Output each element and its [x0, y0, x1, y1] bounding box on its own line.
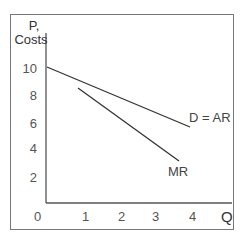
demand-curve-label: D = AR: [189, 111, 231, 124]
x-tick-0: 0: [34, 210, 41, 223]
x-tick-1: 1: [82, 210, 89, 223]
y-tick-6: 6: [13, 117, 37, 130]
x-tick-3: 3: [152, 210, 159, 223]
x-tick-4: 4: [189, 210, 196, 223]
mr-curve-line: [78, 88, 179, 161]
y-tick-2: 2: [13, 171, 37, 184]
y-tick-10: 10: [13, 62, 37, 75]
y-tick-8: 8: [13, 89, 37, 102]
x-tick-2: 2: [118, 210, 125, 223]
x-axis-title: Q: [221, 209, 233, 224]
y-axis-title-line2: Costs: [14, 33, 48, 47]
y-tick-4: 4: [13, 142, 37, 155]
mr-curve-label: MR: [168, 165, 188, 178]
